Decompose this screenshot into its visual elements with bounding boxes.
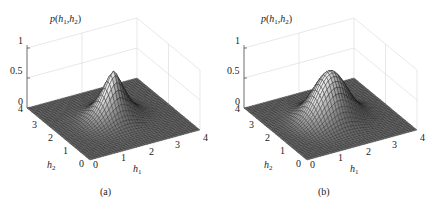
- x-tick-2: 2: [366, 147, 371, 157]
- x-tick-4: 4: [203, 133, 208, 143]
- x-axis-label: h1: [350, 164, 359, 176]
- z-tick-1: 1: [235, 36, 240, 46]
- x-axis-label: h1: [133, 164, 142, 176]
- y-axis-label: h2: [47, 160, 56, 172]
- y-tick-1: 1: [280, 146, 285, 156]
- y-tick-3: 3: [249, 120, 254, 130]
- y-tick-1: 1: [63, 146, 68, 156]
- y-tick-4: 4: [18, 104, 23, 114]
- y-tick-0: 0: [79, 159, 84, 169]
- y-axis-label: h2: [264, 160, 273, 172]
- y-tick-0: 0: [296, 159, 301, 169]
- surface-plot-a: [0, 0, 217, 205]
- x-tick-2: 2: [149, 147, 154, 157]
- y-tick-4: 4: [235, 104, 240, 114]
- panel-caption: (a): [100, 186, 111, 197]
- z-tick-1: 1: [18, 36, 23, 46]
- x-tick-1: 1: [121, 153, 126, 163]
- panel-caption: (b): [318, 186, 330, 197]
- z-axis-label: p(h1,h2): [261, 14, 292, 26]
- x-tick-4: 4: [420, 133, 425, 143]
- x-tick-1: 1: [338, 153, 343, 163]
- x-tick-0: 0: [310, 160, 315, 170]
- panel-a: p(h1,h2) 1 0.5 0 4 3 2 1 0 h2 0 1 2 3 4 …: [0, 0, 217, 205]
- panel-b: p(h1,h2) 1 0.5 0 4 3 2 1 0 h2 0 1 2 3 4 …: [217, 0, 434, 205]
- y-tick-2: 2: [265, 133, 270, 143]
- surface-plot-b: [217, 0, 434, 205]
- x-tick-3: 3: [392, 140, 397, 150]
- y-tick-2: 2: [48, 133, 53, 143]
- x-tick-0: 0: [93, 160, 98, 170]
- z-tick-0-5: 0.5: [10, 66, 23, 76]
- x-tick-3: 3: [175, 140, 180, 150]
- z-tick-0-5: 0.5: [227, 66, 240, 76]
- z-axis-label: p(h1,h2): [50, 14, 81, 26]
- y-tick-3: 3: [32, 120, 37, 130]
